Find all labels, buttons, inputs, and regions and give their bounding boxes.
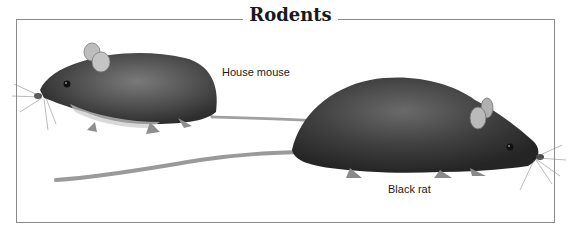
figure-title: Rodents <box>243 4 338 26</box>
rodents-illustration <box>0 0 577 236</box>
house-mouse <box>12 43 217 134</box>
black-rat-label: Black rat <box>388 183 431 195</box>
title-bar: Rodents <box>0 4 577 26</box>
black-rat-tail <box>56 152 300 180</box>
black-rat <box>292 78 566 190</box>
house-mouse-label: House mouse <box>222 66 290 78</box>
